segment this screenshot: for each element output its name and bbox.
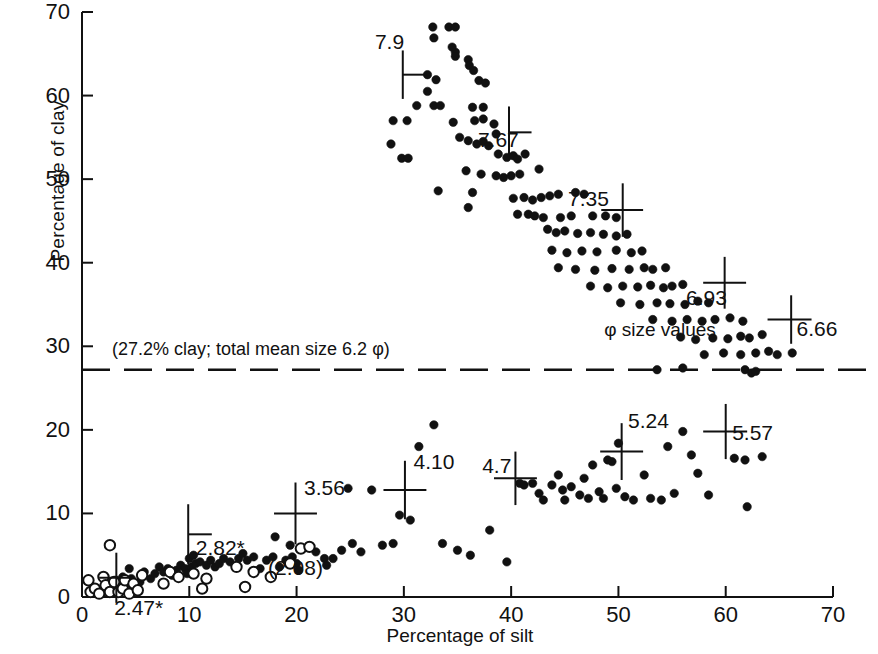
cross-value-label: 4.10 xyxy=(414,450,455,473)
data-point xyxy=(653,299,661,307)
data-point xyxy=(337,546,345,554)
data-point xyxy=(240,582,250,592)
data-point xyxy=(664,442,672,450)
data-point xyxy=(745,334,753,342)
data-point xyxy=(704,491,712,499)
data-point xyxy=(528,479,536,487)
phi-size-values-caption: φ size values xyxy=(604,319,716,340)
data-point xyxy=(528,196,536,204)
data-point xyxy=(567,212,575,220)
data-point xyxy=(670,489,678,497)
x-tick-label: 30 xyxy=(392,602,416,627)
data-point xyxy=(588,212,596,220)
data-point xyxy=(668,282,676,290)
data-point xyxy=(623,230,631,238)
data-point xyxy=(537,193,545,201)
data-point xyxy=(741,456,749,464)
data-point xyxy=(700,350,708,358)
cross-value-label: 6.66 xyxy=(797,317,838,340)
data-point xyxy=(520,193,528,201)
data-point xyxy=(477,170,485,178)
data-point xyxy=(286,541,294,549)
y-tick-label: 60 xyxy=(46,83,70,108)
data-point xyxy=(453,546,461,554)
data-point xyxy=(137,570,147,580)
paren-2-08-label: (2.08) xyxy=(268,556,323,579)
data-point xyxy=(423,87,431,95)
data-point xyxy=(387,140,395,148)
data-point xyxy=(608,264,616,272)
y-tick-label: 70 xyxy=(46,0,70,24)
data-point xyxy=(558,486,566,494)
data-point xyxy=(546,192,554,200)
cross-value-label: 2.82* xyxy=(196,536,245,559)
data-point xyxy=(788,349,796,357)
y-tick-label: 20 xyxy=(46,417,70,442)
data-point xyxy=(468,103,476,111)
data-point xyxy=(659,284,667,292)
data-point xyxy=(173,572,183,582)
data-point xyxy=(513,210,521,218)
cross-value-label: 5.57 xyxy=(732,421,773,444)
data-point xyxy=(657,496,665,504)
data-point xyxy=(197,583,207,593)
data-points-group xyxy=(83,23,796,599)
data-point xyxy=(616,299,624,307)
data-point xyxy=(133,585,143,595)
data-point xyxy=(737,332,745,340)
data-point xyxy=(646,281,654,289)
cross-value-label: 5.24 xyxy=(628,409,669,432)
data-point xyxy=(539,496,547,504)
data-point xyxy=(694,469,702,477)
data-point xyxy=(513,155,521,163)
data-point xyxy=(466,551,474,559)
data-point xyxy=(464,203,472,211)
data-point xyxy=(125,564,133,572)
data-point xyxy=(448,43,456,51)
x-tick-label: 70 xyxy=(821,602,845,627)
data-point xyxy=(608,457,616,465)
data-point xyxy=(438,539,446,547)
data-point xyxy=(627,248,635,256)
data-point xyxy=(521,150,529,158)
data-point xyxy=(432,75,440,83)
data-point xyxy=(625,265,633,273)
data-point xyxy=(666,299,674,307)
data-point xyxy=(730,454,738,462)
data-point xyxy=(481,79,489,87)
data-point xyxy=(599,230,607,238)
data-point xyxy=(367,486,375,494)
cross-value-label: 6.93 xyxy=(686,286,727,309)
plot-text-group: 010203040506070010203040506070(27.2% cla… xyxy=(46,0,846,627)
data-point xyxy=(344,484,352,492)
data-point xyxy=(406,516,414,524)
data-point xyxy=(576,491,584,499)
data-point xyxy=(105,540,115,550)
data-point xyxy=(479,115,487,123)
data-point xyxy=(578,247,586,255)
data-point xyxy=(430,34,438,42)
data-point xyxy=(679,364,687,372)
data-point xyxy=(449,118,457,126)
data-point xyxy=(469,66,477,74)
data-point xyxy=(661,264,669,272)
data-point xyxy=(612,232,620,240)
y-tick-label: 30 xyxy=(46,333,70,358)
data-point xyxy=(404,154,412,162)
data-point xyxy=(563,248,571,256)
y-tick-label: 50 xyxy=(46,166,70,191)
data-point xyxy=(509,194,517,202)
x-tick-label: 60 xyxy=(713,602,737,627)
data-point xyxy=(395,511,403,519)
data-point xyxy=(231,562,241,572)
data-point xyxy=(773,350,781,358)
data-point xyxy=(494,150,502,158)
data-point xyxy=(304,542,314,552)
data-point xyxy=(329,554,337,562)
data-point xyxy=(687,451,695,459)
data-point xyxy=(430,421,438,429)
data-point xyxy=(470,116,478,124)
y-tick-label: 40 xyxy=(46,250,70,275)
data-point xyxy=(389,116,397,124)
data-point xyxy=(158,578,168,588)
